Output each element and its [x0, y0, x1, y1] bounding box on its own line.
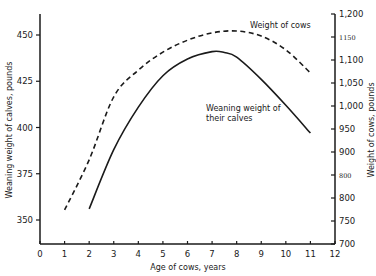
- annotation-calves-line1: Weaning weight of: [206, 104, 281, 113]
- x-tick-label: 5: [160, 249, 165, 259]
- right-tick-label: 800: [339, 172, 351, 180]
- right-tick-label: 1150: [339, 34, 356, 42]
- x-tick-label: 9: [259, 249, 264, 259]
- right-tick-label: 900: [339, 147, 355, 157]
- left-tick-label: 375: [17, 169, 33, 179]
- right-tick-label: 750: [339, 216, 355, 226]
- series: [65, 31, 311, 210]
- series-weight-of-cows: [65, 31, 311, 210]
- annotation-weight-of-cows: Weight of cows: [250, 21, 311, 30]
- x-tick-label: 2: [86, 249, 91, 259]
- x-tick-label: 7: [209, 249, 214, 259]
- x-tick-label: 8: [234, 249, 239, 259]
- right-axis-title: Weight of cows, pounds: [367, 82, 376, 177]
- right-tick-label: 800: [339, 193, 355, 203]
- right-tick-label: 700: [339, 239, 355, 249]
- x-tick-label: 11: [305, 249, 316, 259]
- right-tick-label: 1,200: [339, 9, 363, 19]
- left-tick-label: 425: [17, 76, 33, 86]
- x-tick-label: 4: [136, 249, 141, 259]
- right-tick-label: 1,000: [339, 101, 363, 111]
- left-axis-title: Weaning weight of calves, pounds: [5, 62, 14, 199]
- left-tick-label: 400: [17, 123, 33, 133]
- annotation-calves-line2: their calves: [206, 114, 253, 123]
- series-calf-weaning-weight: [89, 51, 310, 209]
- x-tick-label: 3: [111, 249, 116, 259]
- left-tick-label: 450: [17, 30, 33, 40]
- x-tick-label: 12: [330, 249, 341, 259]
- right-tick-label: 1,050: [339, 78, 363, 88]
- ticks: 0123456789101112350375400425450700750800…: [17, 9, 364, 259]
- x-tick-label: 6: [185, 249, 190, 259]
- axes: [40, 14, 335, 244]
- x-tick-label: 1: [62, 249, 67, 259]
- left-tick-label: 350: [17, 215, 33, 225]
- x-axis-title: Age of cows, years: [150, 263, 225, 272]
- right-tick-label: 1,100: [339, 55, 363, 65]
- right-tick-label: 950: [339, 124, 355, 134]
- chart: 0123456789101112350375400425450700750800…: [0, 0, 376, 276]
- x-tick-label: 10: [280, 249, 291, 259]
- x-tick-label: 0: [37, 249, 42, 259]
